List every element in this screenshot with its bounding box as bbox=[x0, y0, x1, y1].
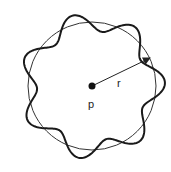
radius-arrow bbox=[92, 58, 150, 86]
diagram-canvas: p r bbox=[0, 0, 171, 172]
center-point bbox=[89, 83, 96, 90]
radius-label: r bbox=[117, 78, 121, 89]
center-label: p bbox=[88, 99, 94, 110]
diagram-svg bbox=[0, 0, 171, 172]
